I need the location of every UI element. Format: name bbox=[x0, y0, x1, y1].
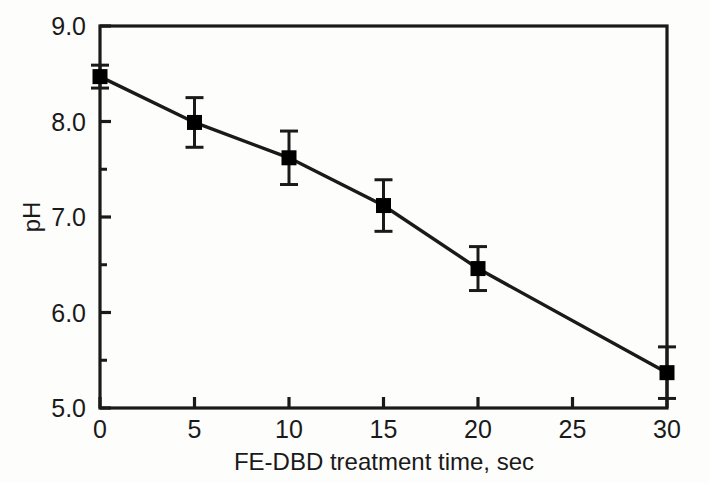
y-tick-label: 7.0 bbox=[51, 203, 86, 231]
data-point-marker bbox=[93, 69, 108, 84]
x-tick-label: 10 bbox=[275, 415, 303, 443]
x-tick-label: 20 bbox=[464, 415, 492, 443]
chart-figure: 5.06.07.08.09.0 051015202530 pH FE-DBD t… bbox=[0, 0, 709, 483]
x-axis-title: FE-DBD treatment time, sec bbox=[234, 448, 534, 475]
x-axis-tick-labels: 051015202530 bbox=[93, 415, 681, 443]
y-tick-label: 8.0 bbox=[51, 108, 86, 136]
x-tick-label: 25 bbox=[559, 415, 587, 443]
data-point-marker bbox=[187, 115, 202, 130]
x-axis-major-ticks bbox=[100, 397, 667, 408]
x-tick-label: 5 bbox=[188, 415, 202, 443]
y-tick-label: 9.0 bbox=[51, 12, 86, 40]
y-tick-label: 6.0 bbox=[51, 299, 86, 327]
y-tick-label: 5.0 bbox=[51, 394, 86, 422]
data-point-marker bbox=[376, 198, 391, 213]
x-tick-label: 0 bbox=[93, 415, 107, 443]
data-point-marker bbox=[660, 365, 675, 380]
x-tick-label: 30 bbox=[653, 415, 681, 443]
ph-vs-treatment-time-chart: 5.06.07.08.09.0 051015202530 pH FE-DBD t… bbox=[0, 0, 709, 483]
data-point-marker bbox=[471, 261, 486, 276]
y-axis-tick-labels: 5.06.07.08.09.0 bbox=[51, 12, 86, 422]
x-tick-label: 15 bbox=[370, 415, 398, 443]
y-axis-title: pH bbox=[18, 202, 45, 233]
data-point-marker bbox=[282, 150, 297, 165]
